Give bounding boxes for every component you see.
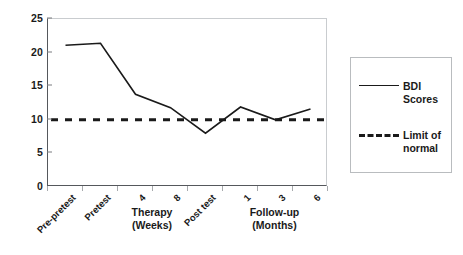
x-axis-tick-label: 4 <box>136 192 148 204</box>
legend-label-line2: Scores <box>403 93 438 106</box>
x-axis-group-label: Therapy(Weeks) <box>132 206 173 232</box>
x-axis-tick-mark <box>187 186 188 191</box>
y-axis-tick-mark <box>47 51 52 52</box>
chart-figure: 0510152025 Pre-pretestPretest48Post test… <box>0 0 463 255</box>
x-axis-tick-mark <box>327 186 328 191</box>
legend-label-limit-of-normal: Limit of normal <box>403 129 441 154</box>
y-axis-tick-label: 10 <box>31 113 43 125</box>
x-axis-tick-label: Post test <box>181 192 217 228</box>
y-axis-tick-mark <box>47 85 52 86</box>
y-axis-tick-mark <box>47 18 52 19</box>
y-axis: 0510152025 <box>0 0 43 255</box>
plot-area <box>47 18 327 186</box>
legend-label-bdi-scores: BDI Scores <box>403 80 438 105</box>
y-axis-tick-label: 20 <box>31 46 43 58</box>
x-axis-group-label-line1: Follow-up <box>250 206 300 219</box>
legend-label-line2: normal <box>403 142 441 155</box>
x-axis-tick-mark <box>47 186 48 191</box>
legend-entry-limit-of-normal: Limit of normal <box>359 129 441 154</box>
x-axis-tick-label: 1 <box>241 192 253 204</box>
y-axis-tick-label: 0 <box>37 180 43 192</box>
chart-legend: BDI Scores Limit of normal <box>350 57 452 173</box>
x-axis-group-label-line2: (Weeks) <box>132 219 173 232</box>
plot-svg <box>48 19 328 187</box>
legend-solid-line-swatch <box>359 85 399 86</box>
y-axis-tick-label: 5 <box>37 146 43 158</box>
x-axis-tick-label: 3 <box>276 192 288 204</box>
x-axis-tick-label: 6 <box>311 192 323 204</box>
x-axis-tick-mark <box>152 186 153 191</box>
bdi-scores-line <box>66 43 311 133</box>
x-axis-tick-label: 8 <box>171 192 183 204</box>
x-axis-group-label-line1: Therapy <box>132 206 173 219</box>
x-axis-group-label: Follow-up(Months) <box>250 206 300 232</box>
y-axis-tick-label: 15 <box>31 79 43 91</box>
x-axis-tick-mark <box>82 186 83 191</box>
legend-dashed-line-swatch <box>359 134 399 137</box>
y-axis-tick-mark <box>47 152 52 153</box>
x-axis-tick-label: Pretest <box>82 192 113 223</box>
legend-entry-bdi-scores: BDI Scores <box>359 80 438 105</box>
x-axis-tick-mark <box>257 186 258 191</box>
x-axis-group-label-line2: (Months) <box>250 219 300 232</box>
x-axis-tick-mark <box>117 186 118 191</box>
legend-label-line1: BDI <box>403 80 438 93</box>
legend-label-line1: Limit of <box>403 129 441 142</box>
x-axis-tick-mark <box>222 186 223 191</box>
x-axis-tick-mark <box>292 186 293 191</box>
y-axis-tick-mark <box>47 118 52 119</box>
y-axis-tick-label: 25 <box>31 12 43 24</box>
